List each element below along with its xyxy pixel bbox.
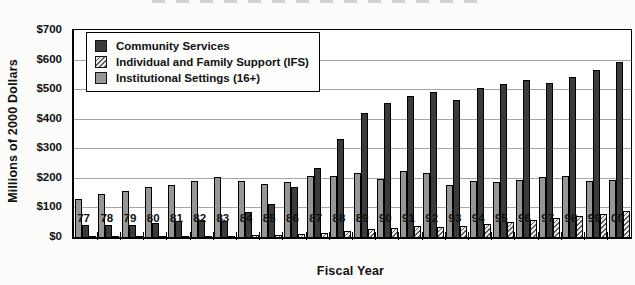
y-tick-label-300: $300	[6, 140, 62, 154]
bar-institutional-settings-16-81	[168, 185, 175, 237]
y-tick-label-200: $200	[6, 170, 62, 184]
bar-institutional-settings-16-89	[354, 173, 361, 237]
bar-community-services-80	[152, 223, 159, 237]
x-tick-label-92: 92	[420, 212, 443, 224]
individual-and-family-support-ifs-swatch-icon	[95, 56, 107, 68]
bar-individual-and-family-support-ifs-89	[368, 229, 375, 237]
x-axis-tick	[398, 232, 399, 240]
x-tick-label-98: 98	[559, 212, 582, 224]
x-axis-tick	[445, 232, 446, 240]
x-tick-label-79: 79	[118, 212, 141, 224]
x-tick-label-83: 83	[211, 212, 234, 224]
bar-group-88	[329, 30, 352, 237]
community-services-swatch-icon	[95, 40, 107, 52]
bar-institutional-settings-16-95	[493, 182, 500, 237]
bar-individual-and-family-support-ifs-78	[112, 236, 119, 237]
bar-institutional-settings-16-92	[423, 173, 430, 237]
legend-label: Individual and Family Support (IFS)	[116, 56, 309, 68]
legend-item-institutional-settings-16: Institutional Settings (16+)	[95, 70, 309, 86]
bar-institutional-settings-16-00	[609, 180, 616, 237]
y-tick-label-0: $0	[6, 229, 62, 243]
bar-individual-and-family-support-ifs-92	[437, 227, 444, 237]
bar-institutional-settings-16-90	[377, 179, 384, 237]
bar-individual-and-family-support-ifs-82	[205, 236, 212, 237]
bar-community-services-87	[314, 168, 321, 237]
x-axis-tick	[190, 232, 191, 240]
bar-individual-and-family-support-ifs-86	[298, 234, 305, 237]
x-axis-tick	[468, 232, 469, 240]
x-axis-tick	[514, 232, 515, 240]
x-axis-tick	[282, 232, 283, 240]
legend-label: Community Services	[116, 40, 230, 52]
bar-institutional-settings-16-82	[191, 181, 198, 237]
bar-institutional-settings-16-91	[400, 171, 407, 237]
bar-institutional-settings-16-96	[516, 180, 523, 237]
x-tick-label-95: 95	[490, 212, 513, 224]
cropped-title-remnant	[152, 0, 488, 3]
bar-individual-and-family-support-ifs-84	[252, 235, 259, 237]
bar-individual-and-family-support-ifs-85	[275, 235, 282, 237]
x-tick-label-00: 00	[606, 212, 629, 224]
bar-institutional-settings-16-84	[238, 181, 245, 237]
bar-individual-and-family-support-ifs-81	[182, 236, 189, 237]
bar-community-services-79	[129, 225, 136, 237]
bar-individual-and-family-support-ifs-94	[484, 224, 491, 237]
bar-group-94	[469, 30, 492, 237]
bar-group-95	[492, 30, 515, 237]
bar-group-00	[608, 30, 631, 237]
chart-figure: Millions of 2000 Dollars $0$100$200$300$…	[0, 0, 635, 285]
x-axis-tick	[143, 232, 144, 240]
x-tick-label-81: 81	[165, 212, 188, 224]
bar-individual-and-family-support-ifs-90	[391, 228, 398, 237]
bar-group-99	[585, 30, 608, 237]
x-tick-label-89: 89	[351, 212, 374, 224]
x-tick-label-90: 90	[374, 212, 397, 224]
bar-individual-and-family-support-ifs-93	[460, 226, 467, 237]
x-axis-tick	[97, 232, 98, 240]
bar-institutional-settings-16-99	[586, 181, 593, 237]
x-tick-label-85: 85	[258, 212, 281, 224]
x-tick-label-78: 78	[95, 212, 118, 224]
x-axis-tick	[306, 232, 307, 240]
y-tick-label-600: $600	[6, 52, 62, 66]
x-tick-label-84: 84	[234, 212, 257, 224]
legend-item-individual-and-family-support-ifs: Individual and Family Support (IFS)	[95, 54, 309, 70]
x-axis-tick	[538, 232, 539, 240]
bar-group-98	[561, 30, 584, 237]
legend-label: Institutional Settings (16+)	[116, 72, 260, 84]
legend-item-community-services: Community Services	[95, 38, 309, 54]
x-tick-label-97: 97	[536, 212, 559, 224]
bar-institutional-settings-16-83	[214, 177, 221, 237]
bar-group-96	[515, 30, 538, 237]
legend: Community ServicesIndividual and Family …	[86, 32, 320, 92]
bar-institutional-settings-16-97	[539, 177, 546, 237]
y-tick-label-700: $700	[6, 22, 62, 36]
bar-individual-and-family-support-ifs-83	[228, 236, 235, 237]
x-tick-label-93: 93	[443, 212, 466, 224]
x-tick-label-87: 87	[304, 212, 327, 224]
x-tick-label-99: 99	[583, 212, 606, 224]
x-axis-tick	[259, 232, 260, 240]
x-axis-tick	[607, 232, 608, 240]
x-axis-tick	[352, 232, 353, 240]
x-axis-tick	[120, 232, 121, 240]
x-axis-tick	[561, 232, 562, 240]
bar-institutional-settings-16-94	[470, 181, 477, 237]
x-tick-label-96: 96	[513, 212, 536, 224]
institutional-settings-16-swatch-icon	[95, 72, 107, 84]
x-axis-tick	[422, 232, 423, 240]
bar-individual-and-family-support-ifs-79	[136, 236, 143, 237]
x-tick-label-77: 77	[72, 212, 95, 224]
bar-community-services-00	[616, 62, 623, 237]
y-tick-label-400: $400	[6, 111, 62, 125]
bar-group-89	[353, 30, 376, 237]
bar-individual-and-family-support-ifs-80	[159, 236, 166, 237]
x-axis-tick	[236, 232, 237, 240]
x-tick-label-80: 80	[142, 212, 165, 224]
x-axis-tick	[166, 232, 167, 240]
bar-individual-and-family-support-ifs-88	[344, 231, 351, 238]
x-axis-tick	[584, 232, 585, 240]
x-axis-tick	[491, 232, 492, 240]
bar-institutional-settings-16-88	[330, 176, 337, 237]
plot-area: Community ServicesIndividual and Family …	[72, 29, 632, 239]
